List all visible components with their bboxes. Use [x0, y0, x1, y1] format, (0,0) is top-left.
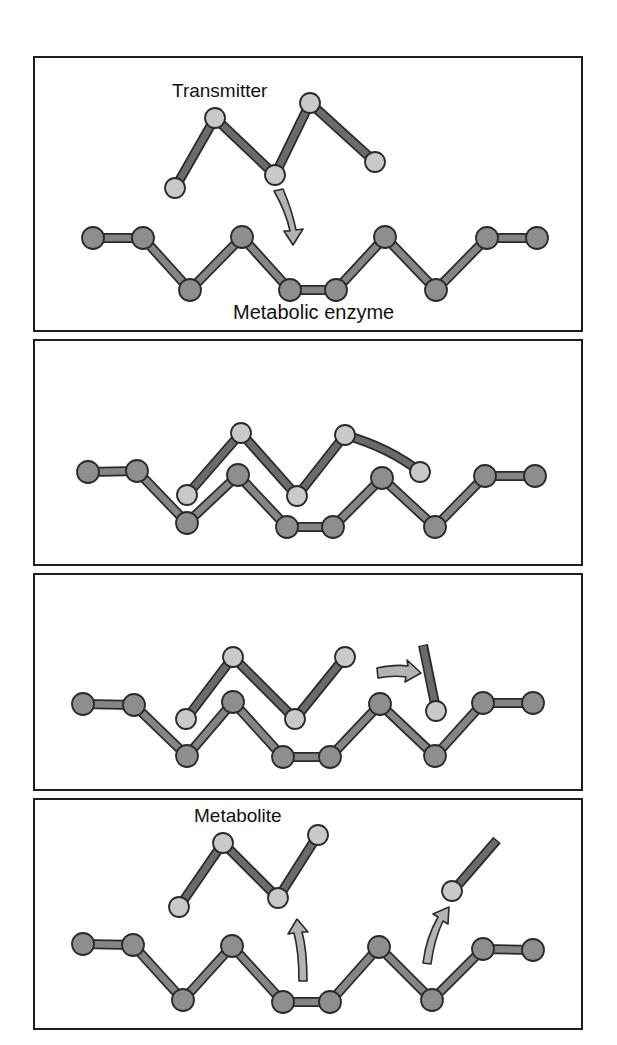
- diagram-canvas: .eb { stroke: #2a2a2a; stroke-width: 10;…: [0, 0, 617, 1045]
- cleaved-fragment-3: [423, 645, 446, 721]
- binding-arrow-icon: [274, 189, 303, 245]
- release-arrow-icon-1: [288, 919, 308, 981]
- cleavage-arrow-icon: [377, 660, 421, 682]
- metabolite-molecule: [169, 825, 328, 917]
- transmitter-label: Transmitter: [172, 80, 267, 102]
- metabolic-enzyme-1: [82, 226, 548, 301]
- transmitter-molecule-3-cleaved: [176, 647, 355, 729]
- release-arrow-icon-2: [423, 907, 449, 964]
- metabolite-label: Metabolite: [194, 805, 282, 827]
- released-fragment-4: [442, 840, 497, 901]
- metabolic-enzyme-4: [72, 933, 544, 1013]
- metabolic-enzyme-label: Metabolic enzyme: [233, 301, 394, 324]
- transmitter-molecule-1: [165, 93, 385, 198]
